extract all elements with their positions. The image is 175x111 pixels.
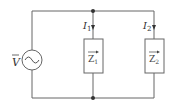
current-label-1: I1 — [82, 20, 91, 33]
ac-source-icon — [22, 50, 42, 70]
junction-top — [91, 9, 95, 13]
current-label-2: I2 — [142, 20, 151, 33]
circuit-diagram: V I1 I2 Z1 Z2 — [0, 0, 175, 111]
arrow-down-icon — [152, 25, 156, 30]
source-label: V — [12, 56, 21, 69]
arrow-down-icon — [91, 25, 95, 30]
junction-bottom — [91, 96, 95, 100]
